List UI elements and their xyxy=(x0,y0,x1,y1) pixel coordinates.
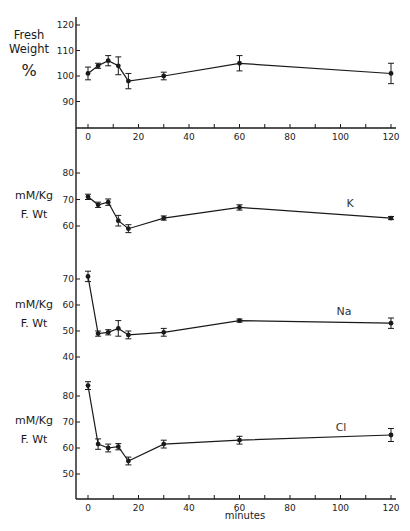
data-point xyxy=(116,218,121,223)
panel-fresh-weight: 90100110120 xyxy=(57,20,394,107)
ylabel-line: Fresh xyxy=(6,28,52,42)
data-point xyxy=(86,71,91,76)
series-label: Na xyxy=(337,305,352,318)
data-point xyxy=(106,58,111,63)
x-tick-label: 100 xyxy=(332,132,349,142)
ylabel-line: F. Wt xyxy=(6,317,62,331)
data-point xyxy=(126,333,131,338)
y-tick-label: 70 xyxy=(63,195,75,205)
data-point xyxy=(106,330,111,335)
panel-chloride: 50607080Cl xyxy=(63,382,394,479)
y-tick-label: 110 xyxy=(57,46,74,56)
y-tick-label: 70 xyxy=(63,417,75,427)
x-tick-label: 40 xyxy=(183,132,195,142)
data-point xyxy=(116,444,121,449)
x-tick-label: 120 xyxy=(382,503,399,513)
y-tick-label: 120 xyxy=(57,20,74,30)
figure: 020406080100120020406080100120 901001101… xyxy=(0,0,410,531)
data-point xyxy=(126,226,131,231)
y-tick-label: 60 xyxy=(63,300,75,310)
ylabel-line: F. Wt xyxy=(6,208,62,222)
x-tick-label: 60 xyxy=(234,132,246,142)
data-point xyxy=(96,331,101,336)
ylabel-line: % xyxy=(6,61,52,81)
y-tick-label: 90 xyxy=(63,97,75,107)
data-point xyxy=(237,61,242,66)
data-point xyxy=(96,442,101,447)
data-point xyxy=(389,71,394,76)
data-point xyxy=(161,442,166,447)
data-point xyxy=(237,205,242,210)
ylabel-line: mM/Kg xyxy=(6,189,62,203)
x-axis-label: minutes xyxy=(220,510,270,523)
na-ylabel: mM/Kg F. Wt xyxy=(6,298,62,331)
ylabel-line: F. Wt xyxy=(6,433,62,447)
series-label: Cl xyxy=(336,421,347,434)
data-point xyxy=(161,330,166,335)
x-tick-label: 120 xyxy=(382,132,399,142)
x-tick-label: 80 xyxy=(284,132,296,142)
data-point xyxy=(96,202,101,207)
x-tick-label: 80 xyxy=(284,503,296,513)
data-point xyxy=(86,194,91,199)
panel-sodium: 40506070Na xyxy=(63,271,394,362)
y-tick-label: 70 xyxy=(63,274,75,284)
data-point xyxy=(96,63,101,68)
data-point xyxy=(161,216,166,221)
data-point xyxy=(116,326,121,331)
x-tick-label: 100 xyxy=(332,503,349,513)
x-tick-label: 20 xyxy=(133,132,145,142)
data-point xyxy=(161,74,166,79)
data-point xyxy=(237,318,242,323)
cl-ylabel: mM/Kg F. Wt xyxy=(6,414,62,447)
y-tick-label: 40 xyxy=(63,352,75,362)
k-ylabel: mM/Kg F. Wt xyxy=(6,189,62,222)
x-tick-label: 40 xyxy=(183,503,195,513)
series-label: K xyxy=(346,197,354,210)
panel-potassium: 607080K xyxy=(63,168,394,233)
data-point xyxy=(237,438,242,443)
y-tick-label: 80 xyxy=(63,168,75,178)
data-point xyxy=(389,216,394,221)
y-tick-label: 50 xyxy=(63,326,75,336)
y-tick-label: 100 xyxy=(57,71,74,81)
y-tick-label: 60 xyxy=(63,443,75,453)
data-point xyxy=(126,459,131,464)
data-point xyxy=(126,79,131,84)
y-tick-label: 60 xyxy=(63,221,75,231)
ylabel-line: mM/Kg xyxy=(6,414,62,428)
data-point xyxy=(106,200,111,205)
fresh-weight-ylabel: Fresh Weight % xyxy=(6,28,52,81)
y-tick-label: 80 xyxy=(63,391,75,401)
data-point xyxy=(106,446,111,451)
y-tick-label: 50 xyxy=(63,469,75,479)
data-point xyxy=(389,433,394,438)
ylabel-line: mM/Kg xyxy=(6,298,62,312)
data-point xyxy=(86,383,91,388)
x-tick-label: 0 xyxy=(85,132,91,142)
x-tick-label: 20 xyxy=(133,503,145,513)
data-point xyxy=(389,321,394,326)
data-point xyxy=(116,63,121,68)
x-tick-label: 0 xyxy=(85,503,91,513)
data-point xyxy=(86,274,91,279)
ylabel-line: Weight xyxy=(6,42,52,56)
